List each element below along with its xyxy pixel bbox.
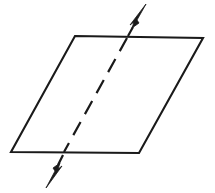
arrowhead-down-icon xyxy=(46,163,62,188)
plane-face xyxy=(11,36,203,153)
geometry-diagram-canvas xyxy=(0,0,215,193)
geometry-figure xyxy=(0,0,215,193)
line-upper-shaft xyxy=(128,27,133,36)
arrowhead-up-icon xyxy=(130,4,146,28)
